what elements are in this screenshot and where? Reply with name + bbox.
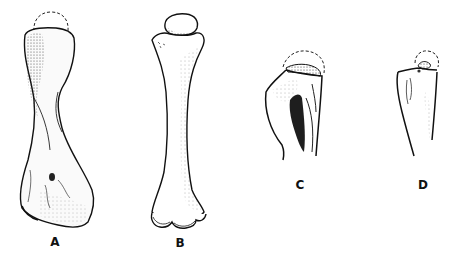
bone-b-drawing: [151, 14, 206, 228]
figure-caption: [0, 258, 457, 267]
bone-d-outline: [397, 68, 437, 156]
bone-c-drawing: [266, 51, 325, 160]
bone-b-outline: [152, 33, 204, 220]
panel-label-d: D: [418, 179, 428, 191]
panel-label-c: C: [296, 179, 305, 191]
bone-d-shading: [424, 90, 431, 140]
bone-d-spot: [417, 69, 420, 72]
panel-label-b: B: [175, 237, 184, 249]
bone-a-drawing: [20, 12, 93, 227]
bone-d-groove: [406, 78, 411, 104]
panel-label-a: A: [50, 236, 59, 248]
bone-drawings: [0, 0, 457, 267]
bone-a-foramen: [49, 173, 55, 181]
bone-c-lines: [306, 84, 316, 152]
bone-c-shadow: [290, 94, 305, 152]
bone-figure: A B C D: [0, 0, 457, 267]
bone-d-drawing: [397, 51, 438, 156]
